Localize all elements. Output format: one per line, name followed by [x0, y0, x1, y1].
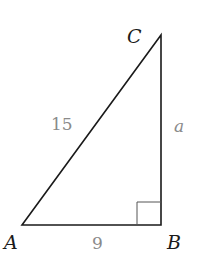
vertex-label-b: B — [166, 231, 181, 253]
leg-ab-label: 9 — [92, 233, 103, 253]
vertex-label-c: C — [127, 25, 142, 47]
hypotenuse-label: 15 — [51, 114, 73, 134]
triangle-diagram: A B C 15 9 a — [0, 0, 197, 261]
triangle-abc — [22, 35, 161, 225]
vertex-label-a: A — [2, 231, 18, 253]
right-angle-marker — [137, 202, 161, 225]
leg-bc-label: a — [174, 116, 184, 136]
